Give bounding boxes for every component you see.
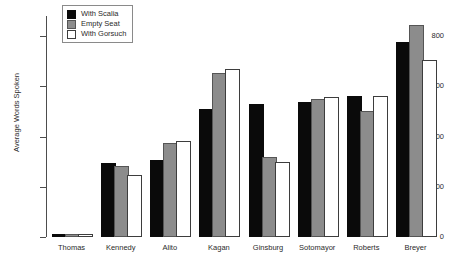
plot-area [47, 16, 440, 237]
chart-legend: With ScaliaEmpty SeatWith Gorsuch [62, 5, 133, 43]
y-axis-title: Average Words Spoken [12, 53, 21, 173]
y-axis-tick-mark [40, 86, 46, 87]
bar-group [249, 16, 288, 237]
bar [324, 97, 339, 237]
y-axis-tick-mark [40, 137, 46, 138]
bar [225, 69, 240, 237]
bar [373, 96, 388, 237]
x-axis-tick-label: Breyer [375, 243, 449, 252]
legend-item: With Scalia [67, 9, 126, 19]
legend-item-label: With Gorsuch [81, 30, 126, 38]
bar-group [199, 16, 238, 237]
y-axis-tick-mark [40, 36, 46, 37]
bar-group [101, 16, 140, 237]
legend-swatch-icon [67, 30, 76, 39]
legend-item: Empty Seat [67, 19, 126, 29]
bar [127, 175, 142, 237]
y-axis-tick-mark [40, 237, 46, 238]
legend-swatch-icon [67, 20, 76, 29]
bar [176, 141, 191, 237]
bar [275, 162, 290, 237]
bar-group [396, 16, 435, 237]
bar-group [298, 16, 337, 237]
legend-item: With Gorsuch [67, 29, 126, 39]
bar [78, 234, 93, 237]
legend-item-label: With Scalia [81, 10, 119, 18]
y-axis-tick-mark [40, 187, 46, 188]
legend-item-label: Empty Seat [81, 20, 120, 28]
bar-group [52, 16, 91, 237]
bar-group [150, 16, 189, 237]
bar [422, 60, 437, 237]
legend-swatch-icon [67, 10, 76, 19]
bar-group [347, 16, 386, 237]
